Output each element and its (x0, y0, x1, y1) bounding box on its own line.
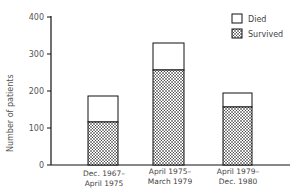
ytick-0: 0 (39, 161, 44, 170)
stacked-bar-chart: 400 300 200 100 0 Number of patients Dec… (0, 0, 306, 195)
ytick-300: 300 (29, 50, 44, 59)
bar-segment-died (223, 93, 252, 107)
category-label: Dec. 1967– (83, 169, 125, 178)
ytick-200: 200 (29, 87, 44, 96)
y-axis-label: Number of patients (6, 74, 15, 152)
ytick-100: 100 (29, 124, 44, 133)
bar-segment-died (153, 43, 184, 70)
legend-label-survived: Survived (248, 30, 283, 39)
category-label: April 1975– (149, 167, 192, 176)
bar-apr1979-dec1980 (223, 93, 252, 165)
y-axis: 400 300 200 100 0 Number of patients (6, 13, 51, 170)
legend-swatch-survived (232, 29, 242, 38)
bar-segment-survived (88, 122, 118, 165)
category-label: Dec. 1980 (219, 177, 258, 186)
legend-swatch-died (232, 14, 242, 23)
category-label: March 1979 (148, 177, 193, 186)
bar-segment-survived (223, 107, 252, 165)
legend: Died Survived (232, 14, 283, 39)
category-label: April 1975 (85, 179, 124, 188)
bar-dec1967-apr1975 (88, 96, 118, 165)
bar-segment-died (88, 96, 118, 122)
category-label: April 1979– (217, 167, 260, 176)
legend-label-died: Died (248, 15, 266, 24)
ytick-400: 400 (29, 13, 44, 22)
bar-apr1975-mar1979 (153, 43, 184, 165)
bar-segment-survived (153, 70, 184, 165)
